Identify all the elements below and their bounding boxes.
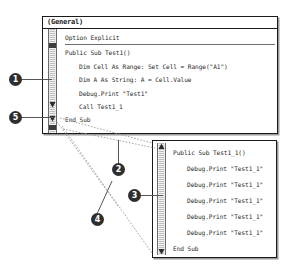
code-line-debug-print-3: Debug.Print "Test1_1": [173, 193, 274, 209]
code-line-debug-print: Debug.Print "Test1": [65, 87, 275, 100]
scroll-down-arrow-icon-general[interactable]: [49, 101, 56, 108]
scroll-up-arrow-icon-sub[interactable]: [158, 143, 165, 150]
leader-line-3: [141, 195, 163, 196]
window-title-general: (General): [47, 18, 83, 26]
code-line-dim-a: Dim A As String: A = Cell.Value: [65, 73, 275, 86]
callout-marker-2: 2: [112, 163, 125, 176]
code-line-end-sub: End Sub: [65, 113, 275, 126]
callout-marker-5: 5: [9, 111, 22, 124]
callout-marker-4: 4: [91, 213, 104, 226]
scrollbar-thumb-general[interactable]: [49, 43, 56, 48]
scrollbar-thumb-general-bottom[interactable]: [49, 125, 56, 130]
vertical-scrollbar-sub[interactable]: [157, 143, 166, 255]
callout-marker-1: 1: [9, 73, 22, 86]
code-line-dim-cell: Dim Cell As Range: Set Cell = Range("A1"…: [65, 60, 275, 73]
code-line-sub-header-2: Public Sub Test1_1(): [173, 145, 274, 161]
code-line-debug-print-1: Debug.Print "Test1_1": [173, 161, 274, 177]
code-line-call-test1-1: Call Test1_1: [65, 100, 275, 113]
scroll-down-arrow-icon-sub[interactable]: [158, 248, 165, 255]
code-window-sub-test1-1[interactable]: Public Sub Test1_1() Debug.Print "Test1_…: [152, 140, 277, 258]
code-area-sub[interactable]: Public Sub Test1_1() Debug.Print "Test1_…: [153, 141, 276, 257]
code-line-sub-header: Public Sub Test1(): [65, 46, 275, 59]
leader-line-1: [22, 79, 52, 80]
code-line-debug-print-2: Debug.Print "Test1_1": [173, 177, 274, 193]
code-line-debug-print-4: Debug.Print "Test1_1": [173, 209, 274, 225]
scrollbar-track-sub[interactable]: [159, 143, 164, 255]
code-lines-general: Option Explicit Public Sub Test1() Dim C…: [65, 31, 275, 127]
leader-line-2: [118, 140, 119, 164]
window-titlebar-general: (General): [43, 17, 277, 29]
code-area-general[interactable]: Option Explicit Public Sub Test1() Dim C…: [43, 29, 277, 133]
code-line-option-explicit: Option Explicit: [65, 31, 275, 45]
code-lines-sub: Public Sub Test1_1() Debug.Print "Test1_…: [173, 145, 274, 257]
leader-line-5: [22, 117, 54, 118]
callout-marker-3: 3: [128, 189, 141, 202]
code-window-general[interactable]: (General) Option Explicit Public Sub Tes…: [42, 16, 278, 134]
code-line-debug-print-5: Debug.Print "Test1_1": [173, 225, 274, 241]
vba-editor-diagram: (General) Option Explicit Public Sub Tes…: [0, 0, 290, 275]
code-line-end-sub-2: End Sub: [173, 241, 274, 257]
